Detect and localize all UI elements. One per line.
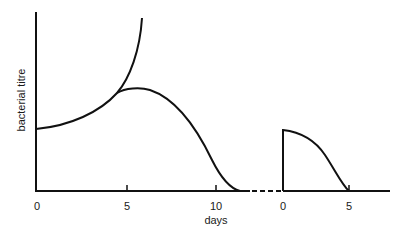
tick-label-10: 10 bbox=[210, 201, 222, 212]
series-exponential-growth bbox=[36, 18, 142, 129]
x-axis-label: days bbox=[204, 215, 227, 226]
tick-label-secondary-5: 5 bbox=[346, 201, 352, 212]
series-second-exposure bbox=[283, 130, 349, 191]
tick-label-0: 0 bbox=[34, 201, 40, 212]
tick-label-secondary-0: 0 bbox=[280, 201, 286, 212]
series-infection-course bbox=[117, 88, 240, 191]
y-axis-label: bacterial titre bbox=[15, 69, 27, 132]
chart-canvas bbox=[0, 0, 403, 238]
tick-label-5: 5 bbox=[124, 201, 130, 212]
